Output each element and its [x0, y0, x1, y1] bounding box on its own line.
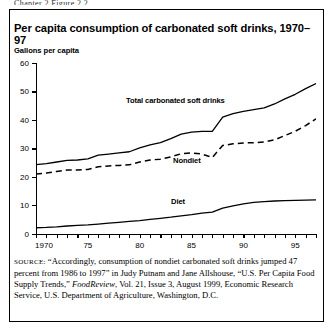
y-axis-title: Gallons per capita	[14, 46, 79, 55]
x-tick-label: 90	[239, 241, 248, 250]
y-tick-label: 10	[20, 201, 29, 210]
x-tick-label: 75	[83, 241, 92, 250]
page-header-stub: Chapter 2 Figure 2.2	[14, 0, 134, 5]
x-tick-label: 1970	[35, 241, 53, 250]
x-tick-label: 80	[135, 241, 144, 250]
y-tick-label: 60	[20, 59, 29, 68]
series-line	[36, 119, 316, 174]
y-tick-label: 0	[25, 229, 29, 238]
series-label: Diet	[171, 197, 185, 206]
y-tick-label: 30	[20, 144, 29, 153]
y-tick-label: 40	[20, 115, 29, 124]
x-tick-mark	[316, 234, 317, 238]
plot-area: 0102030405060 19707580859095 Total carbo…	[36, 63, 316, 235]
source-note: SOURCE: “Accordingly, consumption of non…	[14, 256, 316, 301]
source-publication-title: FoodReview	[72, 279, 115, 289]
figure-title: Per capita consumption of carbonated sof…	[14, 22, 314, 46]
series-label: Total carbonated soft drinks	[126, 96, 225, 105]
y-tick-label: 20	[20, 172, 29, 181]
series-label: Nondiet	[173, 156, 201, 165]
source-label: SOURCE:	[14, 258, 46, 266]
series-lines	[36, 63, 316, 235]
x-tick-label: 85	[187, 241, 196, 250]
x-tick-label: 95	[291, 241, 300, 250]
y-tick-label: 50	[20, 87, 29, 96]
